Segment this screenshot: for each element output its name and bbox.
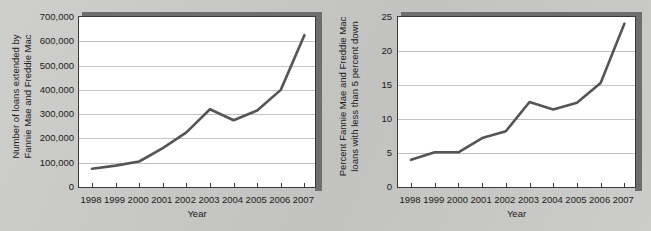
x-tick-label: 2001 (151, 194, 172, 205)
left-plot-shadow-right (315, 12, 322, 191)
x-tick-label: 1998 (399, 194, 420, 205)
x-tick-mark (234, 183, 235, 187)
x-tick-mark (506, 183, 507, 187)
x-tick-mark (304, 183, 305, 187)
x-tick-mark (601, 183, 602, 187)
left-chart-x-tick-labels: 1998199920002001200220032004200520062007 (78, 190, 316, 204)
y-tick-label: 300,000 (40, 108, 74, 119)
x-tick-label: 2000 (447, 194, 468, 205)
x-tick-mark (92, 183, 93, 187)
data-series-svg (79, 17, 315, 187)
chart-percent-low-downpayment: Percent Fannie Mae and Freddie Mac loans… (330, 0, 651, 231)
y-tick-label: 700,000 (40, 11, 74, 22)
x-tick-mark (210, 183, 211, 187)
y-tick-label: 400,000 (40, 83, 74, 94)
right-chart-plot-frame (397, 16, 636, 188)
x-tick-mark (139, 183, 140, 187)
x-tick-mark (530, 183, 531, 187)
x-tick-label: 2000 (128, 194, 149, 205)
data-series-line (92, 35, 304, 169)
y-tick-label: 25 (381, 11, 392, 22)
x-tick-mark (435, 183, 436, 187)
x-tick-label: 2004 (222, 194, 243, 205)
x-tick-mark (281, 183, 282, 187)
x-tick-mark (116, 183, 117, 187)
data-series-line (411, 24, 624, 160)
x-tick-label: 2002 (175, 194, 196, 205)
left-chart-plot-frame (78, 16, 316, 188)
y-tick-label: 500,000 (40, 59, 74, 70)
y-tick-label: 0 (387, 181, 392, 192)
y-tick-label: 15 (381, 79, 392, 90)
x-tick-mark (411, 183, 412, 187)
x-tick-label: 2007 (613, 194, 634, 205)
x-tick-mark (186, 183, 187, 187)
x-tick-mark (577, 183, 578, 187)
left-chart-plot-area (78, 12, 318, 184)
x-tick-label: 2002 (494, 194, 515, 205)
x-tick-label: 2005 (246, 194, 267, 205)
y-tick-label: 600,000 (40, 35, 74, 46)
y-tick-label: 5 (387, 147, 392, 158)
x-tick-label: 2006 (269, 194, 290, 205)
left-y-title-line-1: Number of loans extended by (10, 34, 22, 158)
data-series-svg (398, 17, 635, 187)
x-tick-label: 2006 (589, 194, 610, 205)
y-tick-label: 0 (69, 181, 74, 192)
x-tick-mark (257, 183, 258, 187)
left-chart-y-tick-labels: 0100,000200,000300,000400,000500,000600,… (26, 0, 74, 231)
x-tick-mark (482, 183, 483, 187)
scanned-page-background: Number of loans extended by Fannie Mae a… (0, 0, 651, 231)
x-tick-label: 1999 (423, 194, 444, 205)
right-chart-y-tick-labels: 0510152025 (344, 0, 392, 231)
x-tick-label: 2003 (198, 194, 219, 205)
x-tick-mark (553, 183, 554, 187)
x-tick-label: 2007 (293, 194, 314, 205)
x-tick-mark (624, 183, 625, 187)
x-tick-mark (458, 183, 459, 187)
y-tick-label: 10 (381, 113, 392, 124)
y-tick-label: 200,000 (40, 132, 74, 143)
left-chart-x-axis-title: Year (78, 208, 316, 219)
x-tick-label: 2004 (542, 194, 563, 205)
x-tick-mark (163, 183, 164, 187)
x-tick-label: 2003 (518, 194, 539, 205)
x-tick-label: 1999 (104, 194, 125, 205)
x-tick-label: 1998 (80, 194, 101, 205)
x-tick-label: 2005 (565, 194, 586, 205)
right-chart-x-axis-title: Year (397, 208, 636, 219)
y-tick-label: 100,000 (40, 156, 74, 167)
y-tick-label: 20 (381, 45, 392, 56)
right-chart-plot-area (397, 12, 639, 184)
x-tick-label: 2001 (471, 194, 492, 205)
chart-loans-extended: Number of loans extended by Fannie Mae a… (0, 0, 330, 231)
right-chart-x-tick-labels: 1998199920002001200220032004200520062007 (397, 190, 636, 204)
right-plot-shadow-right (635, 12, 642, 191)
